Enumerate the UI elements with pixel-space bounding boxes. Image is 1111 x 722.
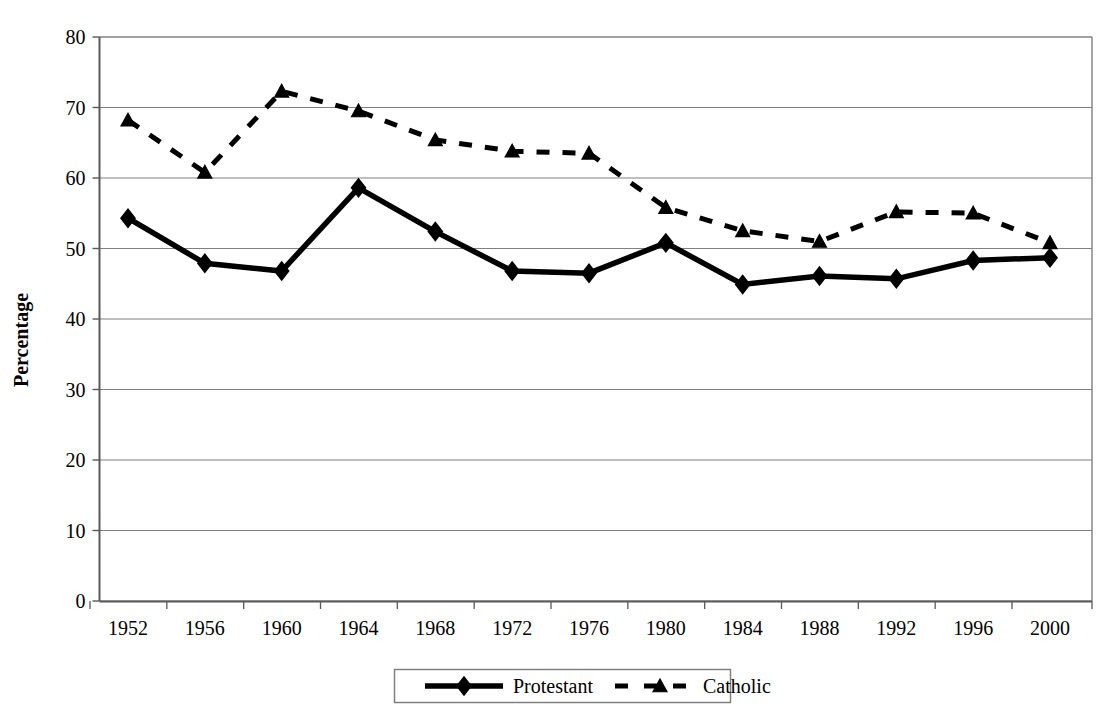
legend-label-catholic: Catholic [703,675,771,697]
y-tick-label: 40 [66,308,86,330]
x-tick-label: 1952 [108,617,148,639]
chart-background [0,0,1111,722]
y-tick-label: 20 [66,449,86,471]
y-tick-label: 70 [66,97,86,119]
x-tick-label: 1976 [569,617,609,639]
legend-label-protestant: Protestant [513,675,593,697]
y-tick-label: 10 [66,520,86,542]
x-tick-label: 1972 [492,617,532,639]
x-tick-label: 1988 [800,617,840,639]
x-tick-label: 1968 [415,617,455,639]
x-tick-label: 1984 [723,617,763,639]
x-tick-label: 2000 [1030,617,1070,639]
x-tick-label: 1996 [953,617,993,639]
chart-page: 01020304050607080 1952195619601964196819… [0,0,1111,722]
x-tick-label: 1960 [262,617,302,639]
y-tick-label: 80 [66,26,86,48]
y-axis-title: Percentage [10,293,33,387]
y-tick-label: 0 [76,590,86,612]
line-chart: 01020304050607080 1952195619601964196819… [0,0,1111,722]
x-tick-label: 1980 [646,617,686,639]
chart-legend: ProtestantCatholic [395,670,771,703]
x-tick-label: 1964 [339,617,379,639]
y-tick-label: 50 [66,238,86,260]
x-tick-label: 1956 [185,617,225,639]
y-tick-label: 60 [66,167,86,189]
x-tick-label: 1992 [876,617,916,639]
y-tick-label: 30 [66,379,86,401]
